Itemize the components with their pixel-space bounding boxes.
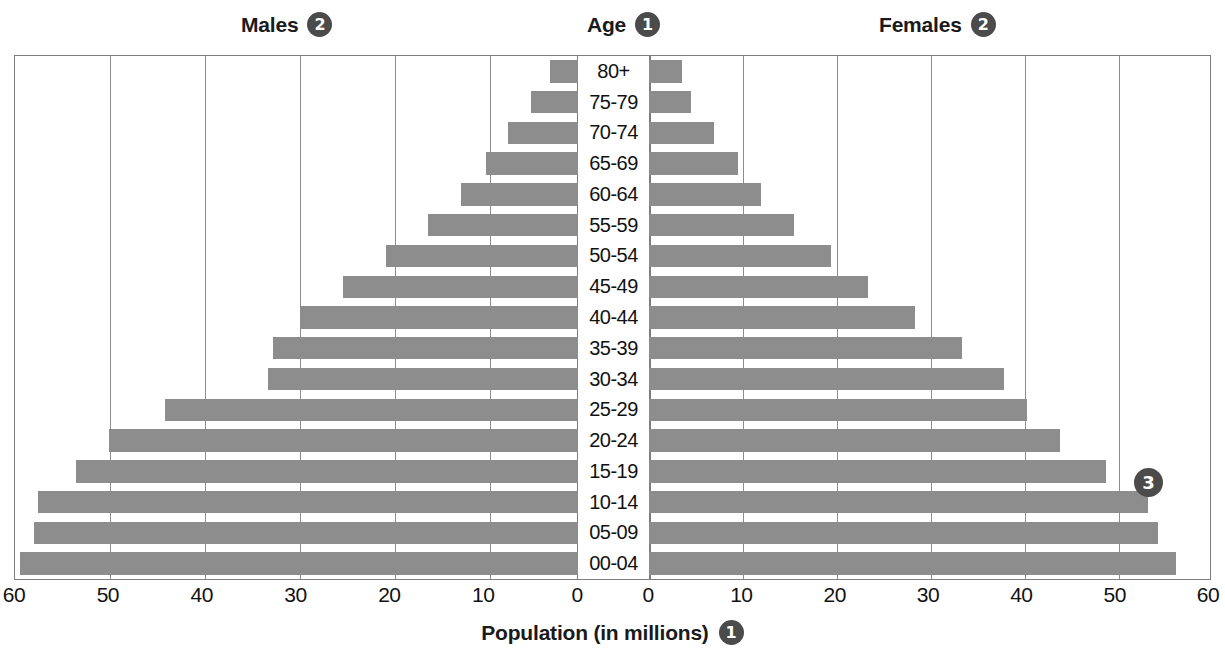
- bar-males-30-34: [268, 368, 578, 390]
- males-bar-rows: [15, 56, 578, 579]
- tick-right-40: 40: [1010, 583, 1032, 607]
- age-label-25-29: 25-29: [578, 398, 649, 421]
- bar-row: [649, 56, 1209, 87]
- tick-left-60: 60: [3, 583, 25, 607]
- age-label-05-09: 05-09: [578, 521, 649, 544]
- age-row: 75-79: [578, 87, 649, 118]
- age-label-75-79: 75-79: [578, 91, 649, 114]
- bar-females-50-54: [649, 245, 831, 267]
- bar-row: [649, 548, 1209, 579]
- age-row: 05-09: [578, 517, 649, 548]
- bar-row: [649, 425, 1209, 456]
- bar-row: [649, 87, 1209, 118]
- bar-row: [649, 364, 1209, 395]
- bar-females-60-64: [649, 183, 761, 205]
- bar-row: [15, 302, 578, 333]
- bar-males-80+: [550, 60, 578, 82]
- bar-row: [15, 271, 578, 302]
- step-badge-3: 3: [1134, 468, 1163, 497]
- chart-header-row: Males 2 Age 1 Females 2: [0, 10, 1225, 46]
- tick-right-0: 0: [642, 583, 653, 607]
- bar-row: [15, 87, 578, 118]
- bar-males-40-44: [301, 306, 578, 328]
- bar-row: [15, 456, 578, 487]
- bar-row: [649, 271, 1209, 302]
- bar-females-05-09: [649, 522, 1158, 544]
- bar-females-35-39: [649, 337, 962, 359]
- age-label-50-54: 50-54: [578, 244, 649, 267]
- age-row: 40-44: [578, 302, 649, 333]
- age-row: 00-04: [578, 548, 649, 579]
- bar-row: [649, 210, 1209, 241]
- bar-males-05-09: [34, 522, 578, 544]
- bar-females-40-44: [649, 306, 915, 328]
- tick-left-30: 30: [284, 583, 306, 607]
- age-label-45-49: 45-49: [578, 275, 649, 298]
- bar-row: [649, 179, 1209, 210]
- age-label-column: 80+75-7970-7465-6960-6455-5950-5445-4940…: [578, 56, 649, 579]
- age-label-40-44: 40-44: [578, 306, 649, 329]
- bar-females-45-49: [649, 276, 868, 298]
- age-label-15-19: 15-19: [578, 460, 649, 483]
- tick-right-60: 60: [1197, 583, 1219, 607]
- bar-row: [649, 456, 1209, 487]
- age-label-60-64: 60-64: [578, 183, 649, 206]
- bar-males-45-49: [343, 276, 578, 298]
- bar-males-35-39: [273, 337, 578, 359]
- age-label-65-69: 65-69: [578, 152, 649, 175]
- age-row: 20-24: [578, 425, 649, 456]
- age-row: 25-29: [578, 394, 649, 425]
- population-pyramid-chart: Males 2 Age 1 Females 2 80+75-7970-7465-…: [0, 0, 1225, 662]
- age-label-35-39: 35-39: [578, 337, 649, 360]
- age-row: 45-49: [578, 271, 649, 302]
- bar-females-80+: [649, 60, 682, 82]
- bar-row: [15, 333, 578, 364]
- bar-females-00-04: [649, 552, 1176, 574]
- age-label-20-24: 20-24: [578, 429, 649, 452]
- bar-females-55-59: [649, 214, 794, 236]
- bar-row: [15, 148, 578, 179]
- bar-row: [15, 364, 578, 395]
- age-header: Age 1: [587, 12, 660, 37]
- bar-males-15-19: [76, 460, 578, 482]
- age-row: 35-39: [578, 333, 649, 364]
- bar-females-20-24: [649, 429, 1060, 451]
- age-label-80+: 80+: [578, 60, 649, 83]
- plot-area: 80+75-7970-7465-6960-6455-5950-5445-4940…: [14, 55, 1211, 580]
- age-header-label: Age: [587, 13, 626, 37]
- bar-row: [649, 148, 1209, 179]
- females-header: Females 2: [879, 12, 996, 37]
- bar-males-70-74: [508, 122, 578, 144]
- bar-females-75-79: [649, 91, 691, 113]
- age-label-00-04: 00-04: [578, 552, 649, 575]
- tick-right-20: 20: [823, 583, 845, 607]
- age-label-rows: 80+75-7970-7465-6960-6455-5950-5445-4940…: [578, 56, 649, 579]
- bar-row: [649, 517, 1209, 548]
- bar-females-30-34: [649, 368, 1004, 390]
- females-panel: [649, 56, 1209, 579]
- bar-row: [649, 241, 1209, 272]
- age-row: 70-74: [578, 118, 649, 149]
- age-row: 30-34: [578, 364, 649, 395]
- callout-badge-3: 3: [1134, 468, 1163, 497]
- bar-row: [15, 548, 578, 579]
- bar-row: [15, 56, 578, 87]
- age-row: 80+: [578, 56, 649, 87]
- x-axis-title-label: Population (in millions): [481, 621, 708, 645]
- tick-right-30: 30: [917, 583, 939, 607]
- bar-females-25-29: [649, 399, 1027, 421]
- step-badge-2-males: 2: [307, 12, 332, 37]
- bar-row: [649, 118, 1209, 149]
- age-row: 10-14: [578, 487, 649, 518]
- bar-row: [15, 394, 578, 425]
- bar-females-70-74: [649, 122, 714, 144]
- bar-row: [15, 487, 578, 518]
- bar-males-65-69: [486, 152, 578, 174]
- age-label-30-34: 30-34: [578, 368, 649, 391]
- bar-row: [15, 210, 578, 241]
- bar-females-65-69: [649, 152, 738, 174]
- bar-males-60-64: [461, 183, 578, 205]
- age-row: 55-59: [578, 210, 649, 241]
- bar-row: [649, 302, 1209, 333]
- bar-males-75-79: [531, 91, 578, 113]
